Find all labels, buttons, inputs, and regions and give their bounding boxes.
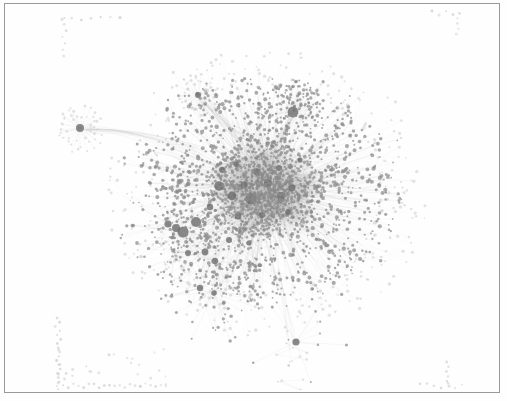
network-graph-canvas[interactable] — [0, 0, 507, 401]
network-graph-figure — [0, 0, 507, 401]
